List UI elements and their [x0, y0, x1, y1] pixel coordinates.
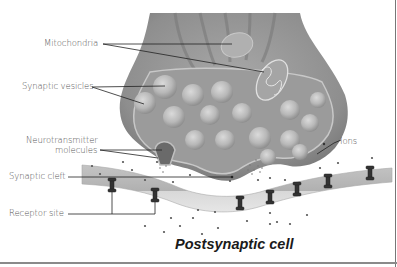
- synapse-diagram: Mitochondria Synaptic vesicles Neurotran…: [0, 0, 397, 267]
- label-synaptic-cleft: Synaptic cleft: [9, 172, 66, 181]
- label-mitochondria: Mitochondria: [44, 39, 98, 48]
- label-synaptic-vesicles: Synaptic vesicles: [22, 82, 94, 91]
- label-ions: Ions: [340, 137, 357, 146]
- label-neurotransmitter-line1: Neurotransmitter: [26, 136, 98, 145]
- diagram-title: Postsynaptic cell: [175, 236, 293, 252]
- frame-border-bottom: [0, 262, 397, 264]
- label-receptor-site: Receptor site: [9, 209, 64, 218]
- label-neurotransmitter-line2: molecules: [55, 146, 97, 155]
- frame-border-right: [395, 0, 396, 267]
